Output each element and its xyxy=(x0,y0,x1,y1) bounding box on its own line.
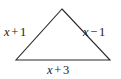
left-side-constant: 1 xyxy=(20,25,26,39)
left-side-variable: x xyxy=(4,25,10,39)
right-side-operator: − xyxy=(89,25,99,39)
left-side-operator: + xyxy=(10,25,20,39)
base-side-operator: + xyxy=(53,63,63,77)
base-side-constant: 3 xyxy=(63,63,69,77)
geometry-figure: x+1 x−1 x+3 xyxy=(0,0,121,79)
right-side-constant: 1 xyxy=(99,25,105,39)
base-side-variable: x xyxy=(47,63,53,77)
left-side-label: x+1 xyxy=(4,26,26,39)
right-side-label: x−1 xyxy=(83,26,105,39)
base-side-label: x+3 xyxy=(47,64,69,77)
right-side-variable: x xyxy=(83,25,89,39)
